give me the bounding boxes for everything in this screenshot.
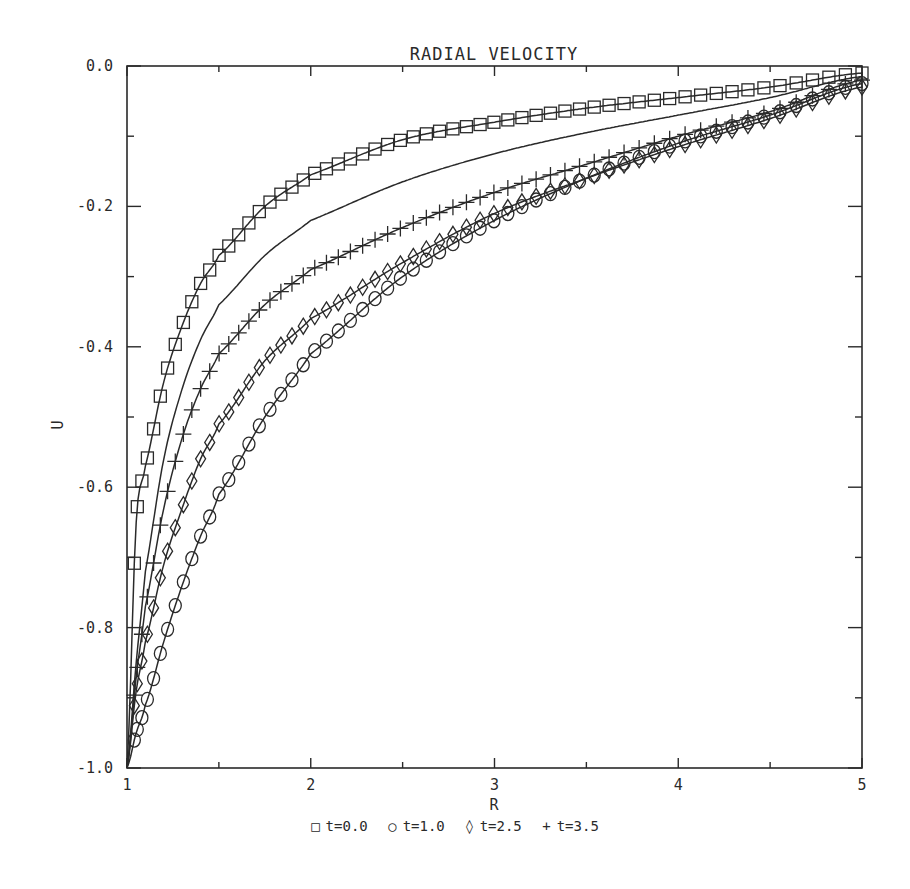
legend-item-t25: ◊t=2.5 bbox=[465, 818, 522, 834]
legend-label: t=2.5 bbox=[480, 818, 522, 834]
svg-text:5: 5 bbox=[857, 776, 866, 794]
legend-label: t=3.5 bbox=[557, 818, 599, 834]
svg-text:-0.6: -0.6 bbox=[77, 478, 113, 496]
circle-marker-icon: ○ bbox=[388, 818, 396, 834]
svg-text:1: 1 bbox=[122, 776, 131, 794]
chart-title: RADIAL VELOCITY bbox=[410, 44, 579, 64]
axis-tick-labels: 123450.0-0.2-0.4-0.6-0.8-1.0 bbox=[77, 57, 867, 794]
legend-label: t=1.0 bbox=[403, 818, 445, 834]
series-none bbox=[127, 77, 862, 769]
diamond-marker-icon: ◊ bbox=[465, 818, 473, 834]
series-circle bbox=[127, 77, 868, 768]
radial-velocity-chart: RADIAL VELOCITY 123450.0-0.2-0.4-0.6-0.8… bbox=[0, 0, 910, 889]
x-axis-label: R bbox=[489, 796, 499, 814]
data-series bbox=[126, 67, 870, 768]
legend-item-t1: ○t=1.0 bbox=[388, 818, 445, 834]
series-diamond bbox=[127, 79, 867, 768]
series-square bbox=[127, 67, 868, 768]
svg-text:-1.0: -1.0 bbox=[77, 759, 113, 777]
svg-text:-0.2: -0.2 bbox=[77, 197, 113, 215]
y-axis-label: U bbox=[49, 420, 67, 429]
svg-text:4: 4 bbox=[674, 776, 683, 794]
legend-item-t0: □t=0.0 bbox=[311, 818, 368, 834]
legend-item-t35: +t=3.5 bbox=[542, 818, 599, 834]
svg-text:-0.8: -0.8 bbox=[77, 619, 113, 637]
plot-frame bbox=[127, 66, 862, 768]
plus-marker-icon: + bbox=[542, 818, 550, 834]
svg-text:-0.4: -0.4 bbox=[77, 338, 113, 356]
legend-label: t=0.0 bbox=[326, 818, 368, 834]
svg-text:0.0: 0.0 bbox=[86, 57, 113, 75]
svg-text:3: 3 bbox=[490, 776, 499, 794]
series-plus bbox=[126, 72, 870, 768]
axis-ticks bbox=[127, 66, 862, 768]
legend: □t=0.0 ○t=1.0 ◊t=2.5 +t=3.5 bbox=[0, 818, 910, 834]
svg-text:2: 2 bbox=[306, 776, 315, 794]
square-marker-icon: □ bbox=[311, 818, 319, 834]
